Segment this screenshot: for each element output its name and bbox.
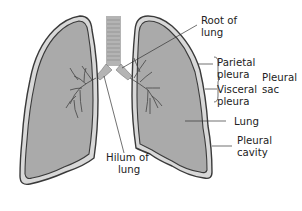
right-lung (20, 16, 98, 184)
label-hilum-of-lung: Hilum of lung (106, 152, 152, 175)
label-pleural-sac: Pleural sac (262, 72, 300, 95)
lung-pleura-diagram: Root of lung Parietal pleura Visceral pl… (0, 0, 302, 211)
lung-right (25, 21, 93, 179)
label-pleural-cavity: Pleural cavity (237, 135, 275, 158)
label-visceral-pleura: Visceral pleura (217, 84, 260, 107)
label-parietal-pleura: Parietal pleura (217, 57, 259, 80)
trachea (96, 16, 132, 80)
label-lung: Lung (234, 116, 259, 127)
label-root-of-lung: Root of lung (201, 15, 240, 38)
